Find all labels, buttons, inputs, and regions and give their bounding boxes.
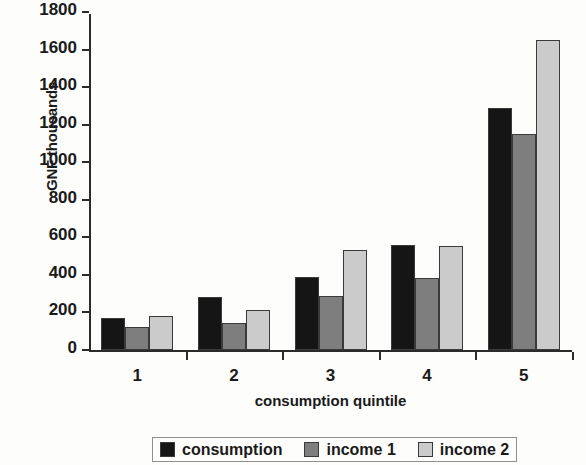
y-axis-tick-label: 1000	[39, 150, 77, 170]
bar	[391, 245, 415, 350]
x-axis-tick-label: 5	[504, 366, 544, 386]
bar	[149, 316, 173, 350]
bar	[512, 134, 536, 350]
bar	[198, 297, 222, 350]
y-axis-tick: 1400	[82, 86, 89, 88]
y-axis-tick-label: 200	[49, 300, 77, 320]
x-axis-title: consumption quintile	[89, 392, 572, 409]
x-axis-line	[89, 350, 572, 352]
x-axis-tick-label: 1	[117, 366, 157, 386]
plot-area: 020040060080010001200140016001800 12345	[89, 14, 572, 352]
bar	[246, 310, 270, 350]
bar-chart-figure: GNF thousands 02004006008001000120014001…	[0, 0, 586, 465]
y-axis-tick: 800	[82, 199, 89, 201]
x-axis-tick	[572, 352, 574, 360]
bar	[125, 327, 149, 350]
legend-entry: income 1	[304, 441, 395, 459]
y-axis-tick: 1600	[82, 49, 89, 51]
legend-label: consumption	[182, 441, 282, 459]
y-axis-tick-label: 1600	[39, 38, 77, 58]
bar	[439, 246, 463, 350]
y-axis-tick: 600	[82, 236, 89, 238]
bar	[536, 40, 560, 350]
y-axis-tick: 1000	[82, 161, 89, 163]
legend-swatch	[160, 442, 175, 457]
legend-swatch	[418, 442, 433, 457]
bar	[101, 318, 125, 350]
bar	[343, 250, 367, 350]
y-axis-tick: 200	[82, 311, 89, 313]
legend-entry: consumption	[160, 441, 282, 459]
bar	[415, 278, 439, 350]
x-axis-tick	[186, 352, 188, 360]
y-axis-tick: 400	[82, 274, 89, 276]
y-axis-tick-label: 600	[49, 225, 77, 245]
y-axis-tick-label: 1400	[39, 75, 77, 95]
y-axis-tick-label: 1200	[39, 113, 77, 133]
bar	[295, 277, 319, 350]
x-axis-tick	[282, 352, 284, 360]
x-axis-tick	[475, 352, 477, 360]
y-axis-tick: 1200	[82, 124, 89, 126]
legend-swatch	[304, 442, 319, 457]
y-axis-tick-label: 800	[49, 188, 77, 208]
y-axis-tick-label: 0	[68, 338, 77, 358]
legend-entry: income 2	[418, 441, 509, 459]
x-axis-tick-label: 4	[407, 366, 447, 386]
bar	[319, 296, 343, 350]
x-axis-tick-label: 3	[311, 366, 351, 386]
x-axis-tick-label: 2	[214, 366, 254, 386]
y-axis-tick-label: 1800	[39, 0, 77, 20]
x-axis-tick	[379, 352, 381, 360]
chart-legend: consumptionincome 1income 2	[152, 437, 517, 462]
bar	[488, 108, 512, 350]
y-axis-tick: 1800	[82, 11, 89, 13]
bar	[222, 323, 246, 350]
legend-label: income 1	[326, 441, 395, 459]
y-axis-tick-label: 400	[49, 263, 77, 283]
legend-label: income 2	[440, 441, 509, 459]
y-axis-line	[89, 14, 91, 352]
y-axis-tick: 0	[82, 349, 89, 351]
